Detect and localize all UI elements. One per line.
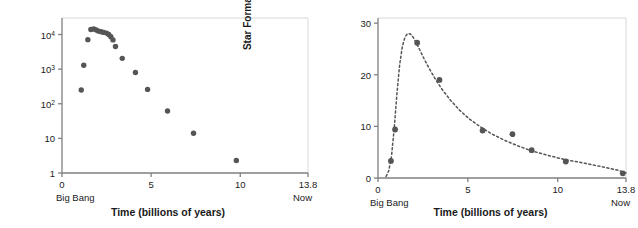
data-point	[85, 37, 90, 42]
left-y-tick-1: 1	[50, 168, 55, 179]
data-point	[165, 108, 170, 113]
data-point	[414, 40, 420, 46]
data-point	[234, 158, 239, 163]
left-now-note: Now	[293, 192, 312, 203]
data-point	[392, 127, 398, 133]
left-x-tick-0: 0	[59, 179, 64, 190]
data-point	[563, 159, 569, 165]
data-point	[437, 77, 443, 83]
right-x-tick-5: 5	[465, 184, 470, 195]
left-y-tick-10e2: 102	[41, 98, 55, 109]
right-x-tick-10: 10	[552, 184, 563, 195]
left-big-bang-note: Big Bang	[56, 192, 95, 203]
right-y-tick-10: 10	[360, 121, 371, 132]
data-point	[145, 87, 150, 92]
left-x-tick-13.8: 13.8	[299, 179, 318, 190]
data-point	[620, 170, 626, 176]
right-big-bang-note: Big Bang	[370, 197, 409, 208]
left-x-axis-title: Time (billions of years)	[28, 206, 308, 218]
data-point	[113, 44, 118, 49]
right-x-tick-0: 0	[375, 184, 380, 195]
panel-star-formation-rate: Star Formation Rate Time (billions of ye…	[318, 0, 638, 228]
quasar-and-star-formation-figure: Relative Number of Quasars (Msun / yr / …	[0, 0, 638, 228]
left-x-tick-10: 10	[235, 179, 246, 190]
right-y-axis-title: Star Formation Rate	[242, 0, 254, 92]
panel-quasar-number: Relative Number of Quasars (Msun / yr / …	[0, 0, 318, 228]
right-now-note: Now	[611, 197, 630, 208]
data-point	[81, 62, 86, 67]
data-point	[110, 37, 115, 42]
data-point	[388, 158, 394, 164]
right-x-tick-13.8: 13.8	[617, 184, 636, 195]
left-y-tick-10e3: 103	[41, 64, 55, 75]
right-data-points	[388, 40, 626, 176]
data-point	[133, 70, 138, 75]
left-data-points	[79, 26, 239, 163]
data-point	[79, 87, 84, 92]
fit-curve	[386, 33, 626, 176]
right-plot-area	[318, 0, 638, 228]
right-y-tick-20: 20	[360, 69, 371, 80]
data-point	[529, 147, 535, 153]
data-point	[510, 131, 516, 137]
data-point	[480, 128, 486, 134]
data-point	[191, 131, 196, 136]
right-y-tick-30: 30	[360, 18, 371, 29]
left-x-tick-5: 5	[148, 179, 153, 190]
data-point	[120, 56, 125, 61]
left-y-tick-10e4: 104	[41, 29, 55, 40]
right-y-tick-0: 0	[366, 173, 371, 184]
left-y-tick-10: 10	[44, 133, 55, 144]
